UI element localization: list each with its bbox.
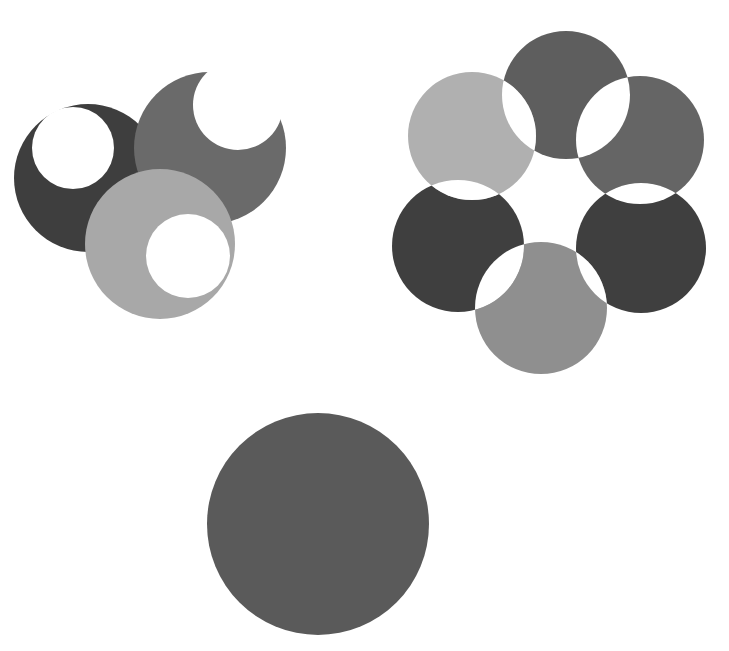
large-circle [207, 413, 429, 635]
crescent-hole [193, 60, 283, 150]
crescent-hole [146, 214, 230, 298]
six-circle-flower-group [392, 31, 706, 374]
single-circle-group [207, 413, 429, 635]
overlapping-crescents-group [14, 60, 286, 319]
figure-canvas [0, 0, 729, 651]
crescent-hole [32, 107, 114, 189]
